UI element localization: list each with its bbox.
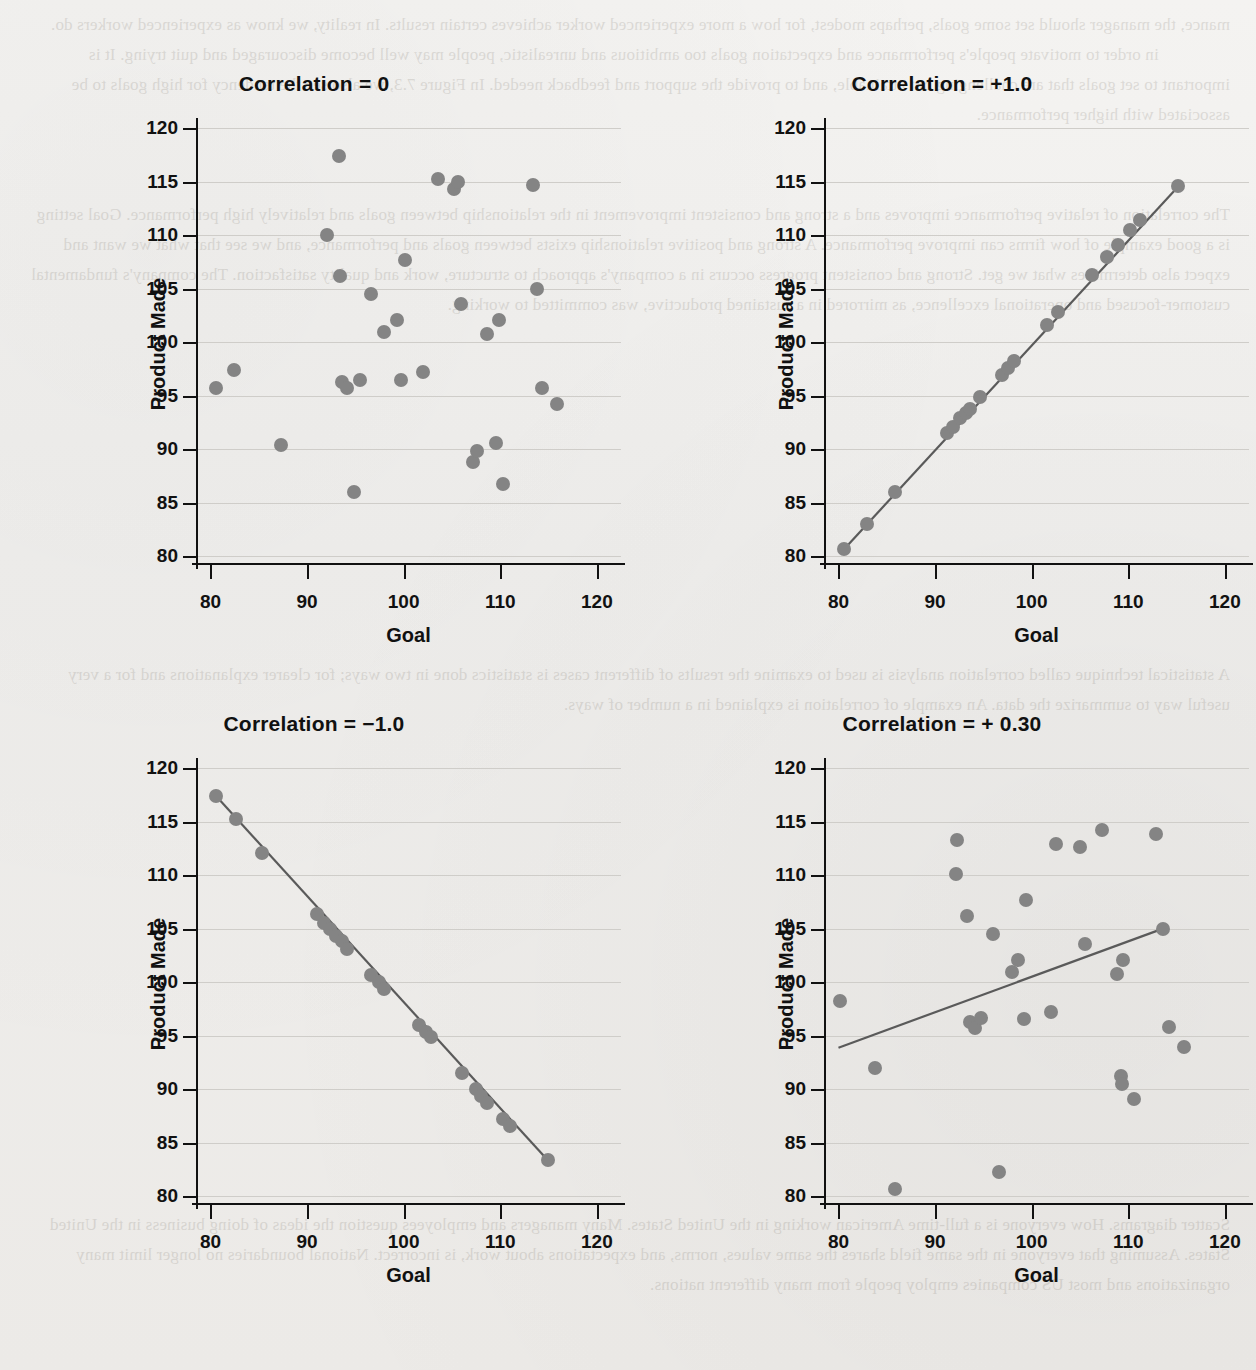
data-point: [541, 1153, 555, 1167]
x-axis-tick: [404, 565, 406, 579]
y-axis-tick: [183, 503, 196, 505]
y-axis-tick-label: 120: [774, 757, 806, 779]
x-axis-tick-label: 80: [828, 1231, 849, 1253]
y-axis-tick-label: 90: [785, 1078, 806, 1100]
data-point: [1011, 953, 1025, 967]
x-axis-tick-label: 110: [1113, 591, 1144, 613]
x-axis-tick: [210, 565, 212, 579]
data-point: [480, 327, 494, 341]
data-point: [1073, 840, 1087, 854]
y-axis-label: Product Made: [775, 277, 798, 409]
y-axis-tick: [183, 235, 196, 237]
data-point: [480, 1096, 494, 1110]
chart-title: Correlation = +1.0: [628, 72, 1256, 96]
y-axis-tick-label: 110: [147, 864, 178, 886]
data-point: [530, 282, 544, 296]
data-point: [1116, 953, 1130, 967]
y-axis-tick: [811, 982, 824, 984]
data-point: [1085, 268, 1099, 282]
data-point: [398, 253, 412, 267]
gridline: [196, 342, 621, 343]
data-point: [1115, 1077, 1129, 1091]
y-axis-tick: [811, 822, 824, 824]
data-point: [888, 1182, 902, 1196]
y-axis-tick: [183, 342, 196, 344]
trend-line: [824, 762, 1249, 1205]
y-axis-tick-label: 90: [157, 1078, 178, 1100]
y-axis-tick-label: 80: [157, 1185, 178, 1207]
data-point: [992, 1165, 1006, 1179]
data-point: [550, 397, 564, 411]
y-axis-tick-label: 115: [775, 811, 806, 833]
y-axis-tick-label: 80: [785, 545, 806, 567]
y-axis-tick: [811, 768, 824, 770]
y-axis-tick-label: 120: [774, 117, 806, 139]
y-axis-tick-label: 115: [147, 811, 178, 833]
y-axis-tick-label: 120: [146, 757, 178, 779]
y-axis-tick: [811, 182, 824, 184]
x-axis-tick-label: 90: [925, 591, 946, 613]
x-axis-tick-label: 120: [581, 1231, 613, 1253]
plot-area: 808590951001051101151208090100110120Goal…: [196, 762, 621, 1205]
data-point: [274, 438, 288, 452]
y-axis-tick-label: 90: [157, 438, 178, 460]
data-point: [209, 789, 223, 803]
plot-area: 808590951001051101151208090100110120Goal…: [196, 122, 621, 565]
data-point: [1051, 305, 1065, 319]
data-point: [455, 1066, 469, 1080]
y-axis-tick-label: 110: [775, 224, 806, 246]
data-point: [489, 436, 503, 450]
y-axis-tick: [811, 1196, 824, 1198]
x-axis-tick-label: 80: [200, 591, 221, 613]
data-point: [353, 373, 367, 387]
x-axis-tick: [935, 1205, 937, 1219]
data-point: [209, 381, 223, 395]
data-point: [1110, 967, 1124, 981]
y-axis-tick: [811, 342, 824, 344]
chart-panel-correlation-zero: Correlation = 08085909510010511011512080…: [0, 0, 628, 660]
data-point: [1149, 827, 1163, 841]
y-axis-line: [196, 118, 198, 569]
data-point: [868, 1061, 882, 1075]
data-point: [1111, 238, 1125, 252]
y-axis-tick: [811, 503, 824, 505]
x-axis-tick: [1225, 565, 1227, 579]
x-axis-tick-label: 120: [1209, 591, 1241, 613]
y-axis-tick-label: 90: [785, 438, 806, 460]
data-point: [949, 867, 963, 881]
x-axis-label: Goal: [196, 1264, 621, 1287]
plot-area: 808590951001051101151208090100110120Goal…: [824, 762, 1249, 1205]
data-point: [963, 402, 977, 416]
gridline: [196, 182, 621, 183]
data-point: [1127, 1092, 1141, 1106]
x-axis-tick-label: 80: [828, 591, 849, 613]
x-axis-tick: [838, 565, 840, 579]
y-axis-label: Product Made: [147, 277, 170, 409]
y-axis-tick-label: 85: [785, 492, 806, 514]
trend-line: [824, 122, 1249, 565]
data-point: [833, 994, 847, 1008]
x-axis-tick: [307, 1205, 309, 1219]
data-point: [451, 175, 465, 189]
data-point: [431, 172, 445, 186]
gridline: [196, 128, 621, 129]
y-axis-tick: [811, 556, 824, 558]
y-axis-tick: [183, 1089, 196, 1091]
y-axis-tick: [183, 1143, 196, 1145]
x-axis-tick-label: 120: [1209, 1231, 1241, 1253]
x-axis-tick: [1032, 565, 1034, 579]
y-axis-tick: [183, 1036, 196, 1038]
data-point: [255, 846, 269, 860]
data-point: [229, 812, 243, 826]
y-axis-tick: [183, 929, 196, 931]
y-axis-tick: [811, 929, 824, 931]
y-axis-tick: [811, 449, 824, 451]
x-axis-tick: [597, 1205, 599, 1219]
chart-panel-correlation-positive-one: Correlation = +1.08085909510010511011512…: [628, 0, 1256, 660]
y-axis-tick: [811, 235, 824, 237]
x-axis-tick-label: 100: [388, 1231, 420, 1253]
x-axis-label: Goal: [824, 624, 1249, 647]
data-point: [860, 517, 874, 531]
data-point: [492, 313, 506, 327]
x-axis-tick-label: 90: [925, 1231, 946, 1253]
